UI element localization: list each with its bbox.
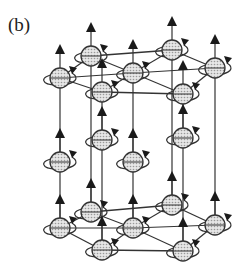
spin-site — [199, 191, 232, 235]
rotation-arrow-icon — [111, 128, 119, 136]
spin-arrow-icon — [210, 191, 220, 201]
rotation-arrow-icon — [100, 200, 108, 208]
spin-arrow-icon — [86, 22, 96, 32]
rotation-arrow-icon — [142, 150, 150, 158]
rotation-arrow-icon — [192, 126, 200, 134]
spin-arrow-icon — [55, 44, 65, 54]
spin-site — [156, 16, 189, 60]
spin-site — [117, 128, 150, 172]
spin-arrow-icon — [128, 128, 138, 138]
spin-arrow-icon — [97, 106, 107, 116]
spin-arrow-icon — [55, 194, 65, 204]
spin-site — [117, 194, 150, 238]
spin-arrow-icon — [55, 128, 65, 138]
rotation-arrow-icon — [224, 213, 232, 221]
spin-arrow-icon — [178, 60, 188, 70]
spin-site — [75, 178, 108, 222]
spin-arrow-icon — [167, 171, 177, 181]
rotation-arrow-icon — [69, 150, 77, 158]
spin-arrow-icon — [167, 16, 177, 26]
spin-site — [199, 34, 232, 78]
spin-site — [44, 194, 77, 238]
spin-site — [156, 171, 189, 215]
rotation-arrow-icon — [224, 56, 232, 64]
spin-arrow-icon — [128, 39, 138, 49]
spin-arrow-icon — [86, 178, 96, 188]
spin-site — [117, 39, 150, 83]
spin-site — [44, 128, 77, 172]
rotation-arrow-icon — [142, 216, 150, 224]
spin-site — [75, 22, 108, 66]
spin-arrow-icon — [128, 194, 138, 204]
spin-arrow-icon — [178, 217, 188, 227]
spin-arrow-icon — [210, 34, 220, 44]
spin-site — [167, 217, 200, 261]
rotation-arrow-icon — [100, 44, 108, 52]
rotation-arrow-icon — [111, 80, 119, 88]
rotation-arrow-icon — [181, 38, 189, 46]
rotation-arrow-icon — [142, 61, 150, 69]
rotation-arrow-icon — [181, 193, 189, 201]
spin-arrow-icon — [178, 104, 188, 114]
spin-lattice-diagram — [0, 0, 246, 263]
